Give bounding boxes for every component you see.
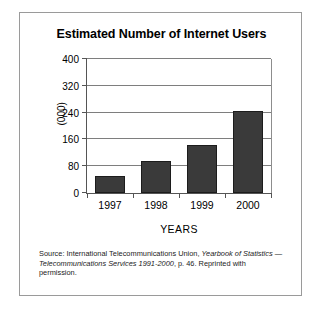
figure-frame: Estimated Number of Internet Users (000)… — [19, 12, 302, 296]
bar-1999 — [187, 145, 216, 193]
x-axis-label-2000: 2000 — [236, 199, 259, 211]
bar-1997 — [95, 176, 124, 193]
bar-slot-1998 — [133, 59, 179, 193]
x-axis-label-1998: 1998 — [144, 199, 167, 211]
bar-slot-1999 — [179, 59, 225, 193]
y-tick-label-240: 240 — [62, 107, 79, 118]
bar-slot-1997 — [87, 59, 133, 193]
x-axis-title: YEARS — [86, 223, 272, 235]
x-tick-1999 — [225, 193, 226, 198]
y-tick-label-0: 0 — [73, 188, 79, 199]
bars-group — [87, 59, 271, 193]
bar-slot-2000 — [225, 59, 271, 193]
x-tick-origin — [87, 193, 88, 198]
y-tick-label-320: 320 — [62, 80, 79, 91]
source-prefix: Source: International Telecommunications… — [39, 249, 202, 258]
plot-area: 400320240160800 1997199819992000 — [86, 59, 272, 194]
x-axis-label-1997: 1997 — [98, 199, 121, 211]
x-tick-1997 — [133, 193, 134, 198]
y-tick-label-160: 160 — [62, 134, 79, 145]
y-tick-label-400: 400 — [62, 54, 79, 65]
source-note: Source: International Telecommunications… — [39, 249, 285, 278]
bar-2000 — [233, 111, 262, 193]
x-tick-2000 — [271, 193, 272, 198]
x-axis-label-1999: 1999 — [190, 199, 213, 211]
bar-1998 — [141, 161, 170, 193]
x-tick-1998 — [179, 193, 180, 198]
y-tick-label-80: 80 — [68, 161, 79, 172]
